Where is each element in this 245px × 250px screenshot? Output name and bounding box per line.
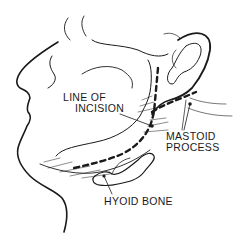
- hyoid-bone-label: HYOID BONE: [104, 196, 173, 207]
- face-profile: [17, 42, 67, 232]
- mastoid-process-label: MASTOID PROCESS: [166, 131, 219, 153]
- anatomical-illustration: LINE OF INCISION MASTOID PROCESS HYOID B…: [0, 0, 245, 250]
- hyoid-bone: [93, 153, 155, 185]
- line-of-incision-label: LINE OF INCISION: [63, 92, 124, 114]
- incision-label-line2: INCISION: [63, 103, 124, 114]
- head-neck-drawing: [0, 0, 245, 250]
- mastoid-label-line2: PROCESS: [166, 142, 219, 153]
- incision-leader: [120, 114, 152, 126]
